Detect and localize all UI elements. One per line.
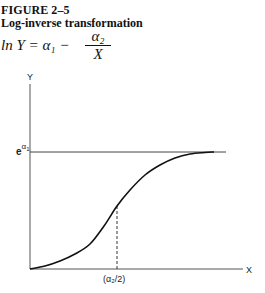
x-axis-label: X (246, 265, 252, 275)
asymptote-label: eα1 (16, 142, 30, 157)
y-axis-label: Y (27, 72, 33, 82)
chart: Y X eα1 (α₂/2) (0, 0, 265, 293)
inflection-tick-label: (α₂/2) (103, 274, 125, 284)
curve (30, 152, 214, 269)
